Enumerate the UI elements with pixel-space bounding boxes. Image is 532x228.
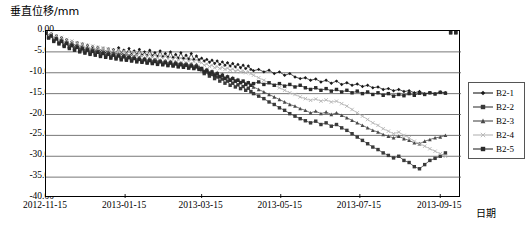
x-tick-label: 2013-01-15	[89, 200, 159, 210]
legend-item-b2-2[interactable]: B2-2	[472, 100, 522, 114]
x-tick-label: 2013-05-15	[245, 200, 315, 210]
plot-area	[45, 30, 460, 197]
legend-symbol-b2-2	[472, 101, 494, 113]
y-axis-title: 垂直位移/mm	[10, 2, 79, 18]
chart-root: 垂直位移/mm 0.00-5.00-10.00-15.00-20.00-25.0…	[0, 0, 532, 228]
legend-item-b2-1[interactable]: B2-1	[472, 86, 522, 100]
legend-label: B2-4	[496, 130, 514, 140]
legend-label: B2-3	[496, 116, 514, 126]
x-tick-label: 2013-07-15	[324, 200, 394, 210]
x-tick-label: 2013-09-15	[404, 200, 474, 210]
legend[interactable]: B2-1B2-2B2-3B2-4B2-5	[468, 82, 525, 159]
legend-symbol-b2-1	[472, 87, 494, 99]
x-axis-title: 日期	[476, 205, 496, 220]
legend-symbol-b2-3	[472, 115, 494, 127]
legend-symbol-b2-4	[472, 129, 494, 141]
legend-label: B2-5	[496, 144, 514, 154]
legend-item-b2-3[interactable]: B2-3	[472, 114, 522, 128]
legend-label: B2-2	[496, 102, 514, 112]
data-series-layer	[46, 31, 461, 198]
legend-symbol-b2-5	[472, 143, 494, 155]
x-tick-label: 2012-11-15	[10, 200, 80, 210]
x-tick-label: 2013-03-15	[166, 200, 236, 210]
legend-label: B2-1	[496, 88, 514, 98]
legend-item-b2-4[interactable]: B2-4	[472, 128, 522, 142]
legend-item-b2-5[interactable]: B2-5	[472, 142, 522, 156]
series-b2-5	[46, 31, 458, 98]
